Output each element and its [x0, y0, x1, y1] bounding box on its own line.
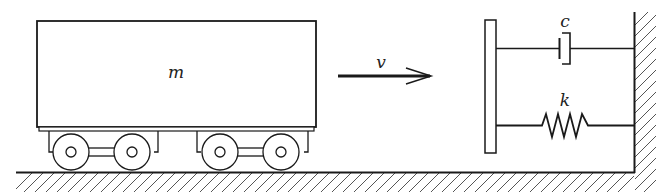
bogie-rear	[197, 131, 308, 170]
wheel	[114, 134, 150, 170]
wheel	[53, 134, 89, 170]
damper-cylinder	[562, 33, 570, 64]
bogie-front	[49, 131, 158, 170]
damper	[496, 33, 634, 64]
ground-hatching	[10, 173, 637, 195]
spring	[496, 114, 634, 137]
mechanical-diagram: m v c k	[0, 0, 663, 196]
wheel	[202, 134, 238, 170]
buffer-plate	[485, 20, 496, 153]
velocity-label: v	[376, 52, 386, 72]
mass-label: m	[168, 62, 184, 82]
spring-label: k	[560, 90, 570, 110]
railcar	[37, 21, 316, 170]
damper-label: c	[560, 11, 570, 31]
railcar-underframe	[39, 127, 314, 131]
wheel	[263, 134, 299, 170]
